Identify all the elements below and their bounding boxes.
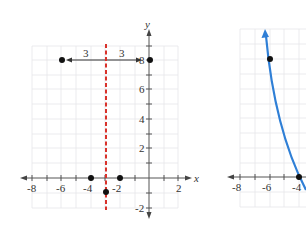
y-axis-label: y bbox=[144, 18, 150, 30]
curve-arrow-up-icon bbox=[262, 29, 270, 38]
point-neg4-0 bbox=[296, 174, 302, 180]
point-neg6-8 bbox=[59, 57, 65, 63]
y-tick-label: 6 bbox=[139, 83, 145, 95]
x-tick-label: -2 bbox=[112, 182, 121, 194]
arrowhead-left-icon bbox=[66, 58, 72, 63]
x-tick-label: -6 bbox=[56, 182, 66, 194]
x-axis-arrow-left-icon bbox=[20, 176, 27, 181]
x-tick-label: -8 bbox=[232, 181, 242, 193]
y-tick-label: -2 bbox=[135, 202, 144, 214]
x-tick-label: 2 bbox=[176, 182, 182, 194]
x-tick-label: -4 bbox=[292, 181, 302, 193]
point-neg6-8 bbox=[267, 56, 273, 62]
y-tick-label: 2 bbox=[139, 142, 145, 154]
y-axis-arrow-up-icon bbox=[147, 29, 152, 36]
x-tick-label: -4 bbox=[83, 182, 93, 194]
x-tick-label: -6 bbox=[262, 181, 272, 193]
right-graph: -8 -6 -4 bbox=[227, 29, 306, 207]
y-axis-arrow-down-icon bbox=[147, 212, 152, 219]
x-axis-label: x bbox=[193, 172, 199, 184]
graphs-canvas: -8 -6 -4 -2 2 x y 8 6 4 2 -2 3 3 bbox=[0, 0, 306, 229]
x-axis-arrow-right-icon bbox=[185, 176, 192, 181]
point-neg2-0 bbox=[117, 175, 123, 181]
x-axis-arrow-left-icon bbox=[227, 175, 234, 180]
y-tick-label: 4 bbox=[139, 113, 145, 125]
point-0-8 bbox=[147, 57, 153, 63]
distance-label-right: 3 bbox=[119, 47, 125, 59]
x-tick-label: -8 bbox=[27, 182, 37, 194]
distance-label-left: 3 bbox=[83, 47, 89, 59]
point-neg3-neg1 bbox=[103, 189, 109, 195]
left-graph: -8 -6 -4 -2 2 x y 8 6 4 2 -2 3 3 bbox=[20, 18, 199, 219]
point-neg4-0 bbox=[88, 175, 94, 181]
